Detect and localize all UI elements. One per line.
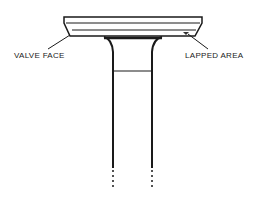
- stem-continuation: [113, 170, 152, 190]
- valve-head: [64, 17, 202, 36]
- valve-face-leader: [48, 35, 70, 49]
- valve-face-label: VALVE FACE: [14, 51, 65, 60]
- valve-diagram: [0, 0, 255, 204]
- lapped-area-leader: [188, 34, 208, 49]
- lapped-area-label: LAPPED AREA: [185, 51, 243, 60]
- valve-neck: [104, 37, 162, 168]
